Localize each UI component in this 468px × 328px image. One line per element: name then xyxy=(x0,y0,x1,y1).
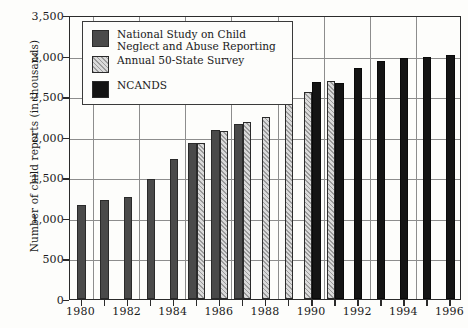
bar-national_study-1984 xyxy=(170,159,178,299)
bar-ncands-1995 xyxy=(423,57,431,299)
y-axis-tick-mark xyxy=(63,219,69,220)
x-axis-tick-mark xyxy=(288,300,289,306)
y-axis-tick-mark xyxy=(63,259,69,260)
x-axis-tick-label: 1990 xyxy=(297,305,326,318)
bar-ncands-1991 xyxy=(335,83,343,299)
x-axis-tick-mark xyxy=(380,300,381,306)
bar-annual_50_state-1991 xyxy=(327,81,335,299)
legend-swatch-national-study xyxy=(92,30,109,47)
bar-annual_50_state-1985 xyxy=(197,143,205,299)
bar-national_study-1987 xyxy=(234,124,242,299)
legend-swatch-annual-50-state xyxy=(92,56,109,73)
x-axis-tick-label: 1996 xyxy=(435,305,464,318)
bar-annual_50_state-1987 xyxy=(243,122,251,299)
bar-national_study-1986 xyxy=(211,130,219,299)
y-axis-tick-mark xyxy=(63,178,69,179)
y-axis-tick-label: 2,000 xyxy=(4,131,64,144)
legend-item-national-study: National Study on Child Neglect and Abus… xyxy=(92,29,276,52)
x-axis-tick-label: 1992 xyxy=(343,305,372,318)
bar-national_study-1983 xyxy=(147,179,155,299)
y-axis-tick-label: 1,000 xyxy=(4,212,64,225)
y-axis-tick-label: 500 xyxy=(4,253,64,266)
bar-chart: Number of child reports (in thousands) 0… xyxy=(0,0,468,328)
y-axis-tick-labels: 05001,0001,5002,0002,5003,0003,500 xyxy=(0,0,64,328)
bar-ncands-1994 xyxy=(400,58,408,299)
legend-label-annual-50-state: Annual 50-State Survey xyxy=(117,55,244,67)
bar-ncands-1996 xyxy=(446,55,454,299)
x-axis-tick-mark xyxy=(104,300,105,306)
bar-annual_50_state-1988 xyxy=(262,117,270,299)
y-axis-tick-label: 2,500 xyxy=(4,91,64,104)
x-axis-tick-mark xyxy=(196,300,197,306)
x-axis-tick-label: 1984 xyxy=(158,305,187,318)
bar-ncands-1990 xyxy=(312,82,320,299)
y-axis-tick-mark xyxy=(63,300,69,301)
x-axis-tick-mark xyxy=(242,300,243,306)
y-axis-tick-label: 0 xyxy=(4,294,64,307)
bar-national_study-1982 xyxy=(124,197,132,299)
gridline-vertical xyxy=(370,17,371,299)
y-axis-tick-label: 3,500 xyxy=(4,10,64,23)
chart-legend: National Study on Child Neglect and Abus… xyxy=(82,21,293,105)
y-axis-tick-label: 3,000 xyxy=(4,50,64,63)
bar-annual_50_state-1989 xyxy=(285,104,293,299)
gridline-vertical xyxy=(324,17,325,299)
x-axis-tick-mark xyxy=(334,300,335,306)
bar-national_study-1985 xyxy=(188,143,196,299)
bar-ncands-1993 xyxy=(377,61,385,299)
y-axis-tick-mark xyxy=(63,97,69,98)
legend-label-national-study: National Study on Child Neglect and Abus… xyxy=(117,29,276,52)
legend-swatch-ncands xyxy=(92,81,109,98)
bar-national_study-1981 xyxy=(100,200,108,299)
gridline-vertical xyxy=(416,17,417,299)
x-axis-tick-mark xyxy=(426,300,427,306)
legend-label-ncands: NCANDS xyxy=(117,80,167,92)
x-axis-tick-label: 1986 xyxy=(204,305,233,318)
y-axis-tick-mark xyxy=(63,16,69,17)
x-axis-tick-label: 1980 xyxy=(66,305,95,318)
bar-annual_50_state-1986 xyxy=(220,131,228,299)
y-axis-tick-mark xyxy=(63,57,69,58)
legend-item-annual-50-state: Annual 50-State Survey xyxy=(92,55,244,73)
legend-item-ncands: NCANDS xyxy=(92,80,167,98)
x-axis-tick-mark xyxy=(150,300,151,306)
bar-ncands-1992 xyxy=(354,68,362,299)
y-axis-tick-label: 1,500 xyxy=(4,172,64,185)
bar-national_study-1980 xyxy=(77,205,85,299)
x-axis-tick-label: 1988 xyxy=(251,305,280,318)
x-axis-tick-label: 1994 xyxy=(389,305,418,318)
y-axis-tick-mark xyxy=(63,138,69,139)
x-axis-tick-label: 1982 xyxy=(112,305,141,318)
bar-annual_50_state-1990 xyxy=(304,92,312,299)
